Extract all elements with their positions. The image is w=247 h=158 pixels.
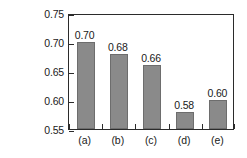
- bar-value-label: 0.70: [65, 30, 105, 41]
- bar: [77, 42, 95, 129]
- y-axis-tick-label: 0.60: [24, 96, 64, 107]
- x-axis-tick-mark: [169, 124, 170, 129]
- y-axis-tick-mark: [69, 102, 74, 103]
- x-axis-tick-mark: [135, 124, 136, 129]
- bar-chart-figure: Total surface deflection ΔT (mm) 0.550.6…: [0, 0, 247, 158]
- y-axis-tick-label: 0.65: [24, 67, 64, 78]
- bar: [209, 100, 227, 129]
- y-axis-tick-label: 0.70: [24, 38, 64, 49]
- bar-value-label: 0.66: [131, 53, 171, 64]
- y-axis-tick-label: 0.55: [24, 125, 64, 136]
- x-axis-tick-mark: [234, 124, 235, 129]
- y-axis-tick-mark: [69, 131, 74, 132]
- y-axis-tick-mark: [69, 73, 74, 74]
- y-axis-tick-mark: [69, 44, 74, 45]
- bar: [110, 54, 128, 129]
- bar: [143, 65, 161, 129]
- y-axis-tick-mark: [69, 15, 74, 16]
- x-axis-tick-mark: [102, 124, 103, 129]
- x-axis-tick-mark: [69, 124, 70, 129]
- bar-value-label: 0.60: [197, 88, 237, 99]
- y-axis-tick-label: 0.75: [24, 9, 64, 20]
- x-axis-tick-mark: [202, 124, 203, 129]
- x-axis-category-label: (e): [197, 134, 237, 146]
- bar-value-label: 0.58: [164, 100, 204, 111]
- bar-value-label: 0.68: [98, 42, 138, 53]
- bar: [176, 112, 194, 129]
